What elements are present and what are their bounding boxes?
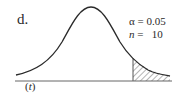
alpha-value: 0.05 — [146, 15, 165, 27]
alpha-symbol: α — [129, 15, 135, 27]
axis-label: (t) — [25, 80, 35, 92]
n-symbol: n — [129, 28, 135, 40]
n-value: 10 — [152, 28, 163, 40]
panel-label: d. — [17, 11, 28, 28]
alpha-annotation: α = 0.05 — [129, 15, 166, 27]
rejection-region — [133, 50, 173, 82]
sample-size-annotation: n = 10 — [129, 28, 163, 40]
